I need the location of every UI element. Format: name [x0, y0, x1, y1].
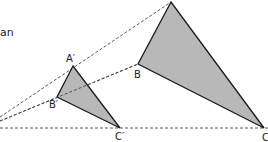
label-C: C — [262, 132, 268, 142]
enlargement-diagram: A′ B′ C′ B C — [0, 0, 268, 142]
label-A-prime: A′ — [66, 53, 76, 64]
label-C-prime: C′ — [115, 131, 125, 142]
label-B-prime: B′ — [49, 99, 59, 110]
triangle-A-prime — [57, 66, 120, 128]
triangle-ABC — [138, 2, 264, 128]
label-B: B — [134, 69, 141, 80]
